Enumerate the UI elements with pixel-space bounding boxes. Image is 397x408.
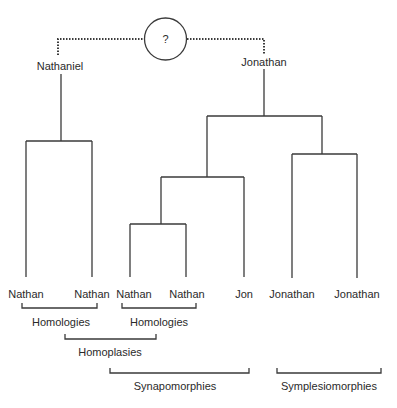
- tip-label: Nathan: [8, 288, 43, 300]
- grouping-label-synapomorphies: Synapomorphies: [134, 380, 217, 392]
- grouping-label-homoplasies: Homoplasies: [78, 346, 142, 358]
- tip-label: Jon: [235, 288, 253, 300]
- tip-label: Nathan: [116, 288, 151, 300]
- bracket-synapomorphies: [110, 368, 249, 373]
- tip-label: Jonathan: [334, 288, 379, 300]
- root-label-jonathan: Jonathan: [241, 56, 286, 68]
- grouping-label-homologies: Homologies: [32, 316, 91, 328]
- grouping-label-symplesiomorphies: Symplesiomorphies: [281, 380, 377, 392]
- root-label-nathaniel: Nathaniel: [37, 60, 83, 72]
- tip-labels: Nathan Nathan Nathan Nathan Jon Jonathan…: [8, 288, 379, 300]
- jonathan-clade: [130, 69, 357, 278]
- tip-label: Nathan: [74, 288, 109, 300]
- ancestor-link: ?: [58, 18, 264, 60]
- tip-label: Nathan: [169, 288, 204, 300]
- bracket-homologies-1: [22, 303, 97, 308]
- nathaniel-clade: [26, 74, 92, 277]
- ancestor-symbol: ?: [162, 33, 168, 45]
- cladogram-diagram: ? Nathaniel Jonathan Nathan Nathan Natha…: [0, 0, 397, 408]
- bracket-symplesiomorphies: [277, 368, 381, 373]
- grouping-brackets: Homologies Homologies Homoplasies Synapo…: [22, 303, 381, 392]
- bracket-homologies-2: [122, 303, 196, 308]
- bracket-homoplasies: [65, 334, 156, 339]
- tip-label: Jonathan: [269, 288, 314, 300]
- grouping-label-homologies: Homologies: [130, 316, 189, 328]
